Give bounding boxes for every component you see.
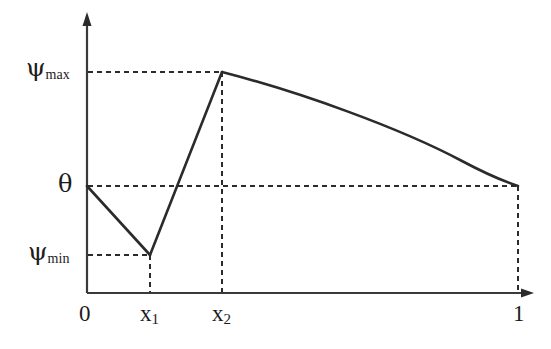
series-segment-decay — [222, 72, 518, 186]
psi-max-subscript: max — [46, 67, 70, 82]
psi-profile-figure: ψmax θ ψmin 0 x1 x2 1 — [0, 0, 551, 349]
y-tick-label-theta: θ — [58, 172, 72, 196]
x-tick-x1-main: x — [140, 301, 152, 326]
psi-glyph-min: ψ — [28, 237, 48, 266]
x-tick-label-x1: x1 — [140, 302, 159, 325]
x-tick-x1-subscript: 1 — [152, 311, 160, 327]
x-tick-label-x2: x2 — [212, 302, 231, 325]
series-segment-rise — [150, 72, 222, 255]
x-tick-x2-subscript: 2 — [224, 311, 232, 327]
series-segment-decline — [87, 186, 150, 255]
x-tick-one-main: 1 — [513, 301, 525, 326]
x-tick-label-one: 1 — [513, 302, 525, 325]
x-tick-zero-main: 0 — [79, 301, 91, 326]
y-tick-label-psi-max: ψmax — [26, 55, 70, 80]
x-tick-x2-main: x — [212, 301, 224, 326]
theta-glyph: θ — [58, 170, 72, 198]
plot-canvas — [0, 0, 551, 349]
psi-glyph-max: ψ — [26, 53, 46, 82]
x-tick-label-zero: 0 — [79, 302, 91, 325]
y-tick-label-psi-min: ψmin — [28, 239, 69, 264]
x-axis-arrow-icon — [521, 289, 534, 298]
y-axis-arrow-icon — [83, 12, 92, 26]
psi-min-subscript: min — [48, 251, 70, 266]
